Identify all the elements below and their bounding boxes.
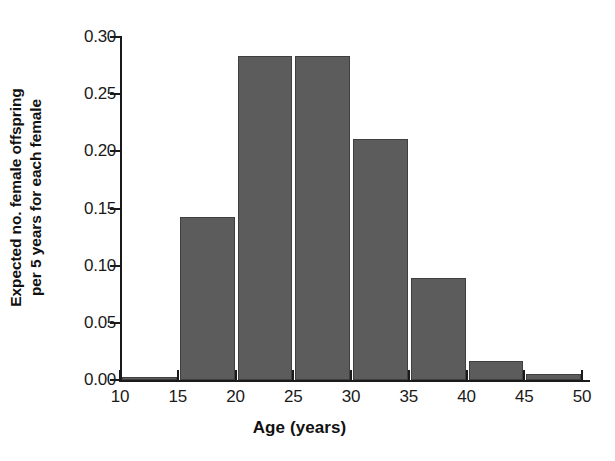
x-axis-tick-label: 25 <box>284 387 302 407</box>
x-axis-title-container: Age (years) <box>0 418 615 438</box>
y-axis-title-container: Expected no. female offspring per 5 year… <box>0 0 58 400</box>
y-axis-tick-label: 0.00 <box>58 370 116 390</box>
y-axis-line <box>120 36 122 381</box>
x-axis-tick-label: 35 <box>400 387 418 407</box>
x-axis-tick-label: 20 <box>226 387 244 407</box>
x-axis-tick-mark <box>350 370 352 382</box>
plot-area: 101520253035404550 <box>120 37 582 380</box>
y-axis-tick-mark <box>110 36 120 38</box>
y-axis-tick-label: 0.15 <box>58 199 116 219</box>
x-axis-tick-label: 40 <box>457 387 475 407</box>
y-axis-tick-labels: 0.300.250.200.150.100.050.00 <box>58 0 116 461</box>
x-axis-tick-mark <box>581 370 583 382</box>
y-axis-tick-mark <box>110 208 120 210</box>
bar <box>469 361 524 380</box>
x-axis-tick-label: 15 <box>169 387 187 407</box>
bar <box>122 377 177 380</box>
x-axis-tick-mark <box>466 370 468 382</box>
bar <box>411 278 466 380</box>
y-axis-tick-mark <box>110 150 120 152</box>
y-axis-tick-label: 0.10 <box>58 256 116 276</box>
y-axis-tick-mark <box>110 93 120 95</box>
x-axis-tick-label: 50 <box>573 387 591 407</box>
bar <box>295 56 350 380</box>
bar <box>180 217 235 380</box>
x-axis-title: Age (years) <box>253 418 347 437</box>
x-axis-tick-label: 10 <box>111 387 129 407</box>
x-axis-tick-mark <box>235 370 237 382</box>
bar-chart-figure: Expected no. female offspring per 5 year… <box>0 0 615 461</box>
x-axis-tick-mark <box>523 370 525 382</box>
x-axis-tick-label: 30 <box>342 387 360 407</box>
y-axis-title: Expected no. female offspring per 5 year… <box>6 10 46 385</box>
bar <box>238 56 293 380</box>
y-axis-tick-mark <box>110 265 120 267</box>
y-axis-tick-label: 0.20 <box>58 141 116 161</box>
bar <box>353 139 408 380</box>
x-axis-tick-mark <box>408 370 410 382</box>
y-axis-tick-label: 0.05 <box>58 313 116 333</box>
y-axis-tick-label: 0.30 <box>58 27 116 47</box>
bar <box>526 374 581 380</box>
y-axis-tick-mark <box>110 322 120 324</box>
y-axis-tick-label: 0.25 <box>58 84 116 104</box>
x-axis-tick-label: 45 <box>515 387 533 407</box>
x-axis-tick-mark <box>292 370 294 382</box>
x-axis-line <box>120 380 590 382</box>
x-axis-tick-mark <box>177 370 179 382</box>
x-axis-tick-mark <box>119 370 121 382</box>
